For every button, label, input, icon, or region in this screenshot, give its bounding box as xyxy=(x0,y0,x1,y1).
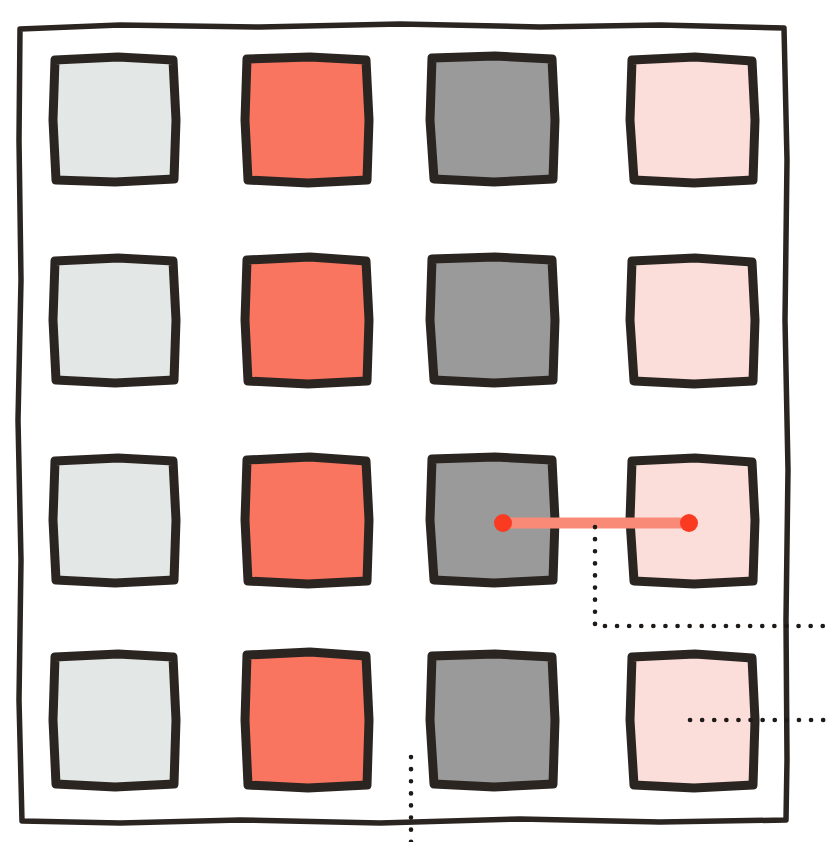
diagram-canvas xyxy=(0,0,830,842)
callout-layer xyxy=(0,0,830,842)
callout-upper-leader-line xyxy=(595,527,830,626)
